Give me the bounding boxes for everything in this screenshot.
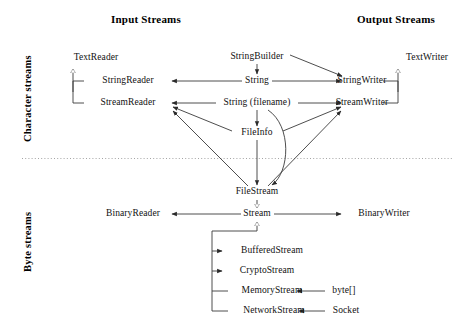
node-string-filename: String (filename) — [224, 98, 291, 108]
node-binarywriter: BinaryWriter — [358, 209, 409, 219]
node-byte-array: byte[] — [332, 286, 355, 296]
band-title-character-streams: Character streams — [22, 55, 33, 142]
node-stream: Stream — [243, 209, 271, 219]
connector-layer — [0, 0, 471, 333]
node-cryptostream: CryptoStream — [240, 266, 295, 276]
node-memorystream: MemoryStream — [242, 286, 303, 296]
node-string: String — [245, 76, 269, 86]
node-streamwriter: StreamWriter — [336, 98, 389, 108]
edge-fileinfo-to-streamwriter — [283, 107, 341, 131]
node-binaryreader: BinaryReader — [106, 209, 160, 219]
node-streamreader: StreamReader — [100, 98, 155, 108]
edge-filename-to-filestream-curve — [268, 110, 286, 185]
column-title-output-streams: Output Streams — [357, 13, 435, 25]
node-fileinfo: FileInfo — [241, 128, 272, 138]
band-title-byte-streams: Byte streams — [22, 212, 33, 272]
node-textwriter: TextWriter — [406, 53, 448, 63]
node-stringwriter: StringWriter — [338, 76, 387, 86]
column-title-input-streams: Input Streams — [111, 13, 181, 25]
stream-class-diagram: Input Streams Output Streams Character s… — [0, 0, 471, 333]
node-networkstream: NetworkStream — [243, 306, 304, 316]
node-filestream: FileStream — [236, 187, 279, 197]
node-socket: Socket — [333, 306, 359, 316]
node-textreader: TextReader — [74, 53, 119, 63]
edge-stringbuilder-to-stringwriter — [290, 55, 342, 76]
node-stringbuilder: StringBuilder — [230, 52, 283, 62]
node-stringreader: StringReader — [102, 76, 153, 86]
edge-fileinfo-to-streamreader — [173, 107, 232, 131]
node-bufferedstream: BufferedStream — [241, 246, 303, 256]
